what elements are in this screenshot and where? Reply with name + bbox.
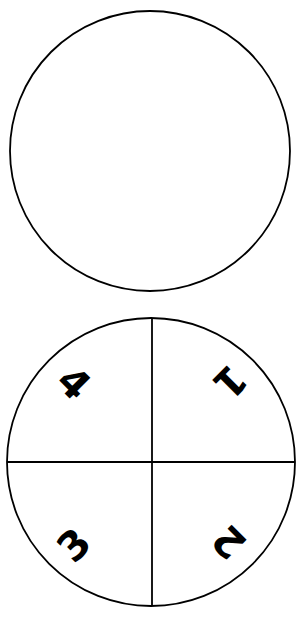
quadrant-label-2: 2 (203, 516, 255, 568)
quadrant-label-1: 1 (204, 356, 256, 408)
diagram-canvas: 1 2 3 4 (0, 0, 305, 623)
bottom-circle-group: 1 2 3 4 (7, 318, 295, 606)
top-circle (10, 11, 290, 291)
quadrant-label-4: 4 (48, 357, 100, 409)
quadrant-label-3: 3 (48, 519, 100, 571)
